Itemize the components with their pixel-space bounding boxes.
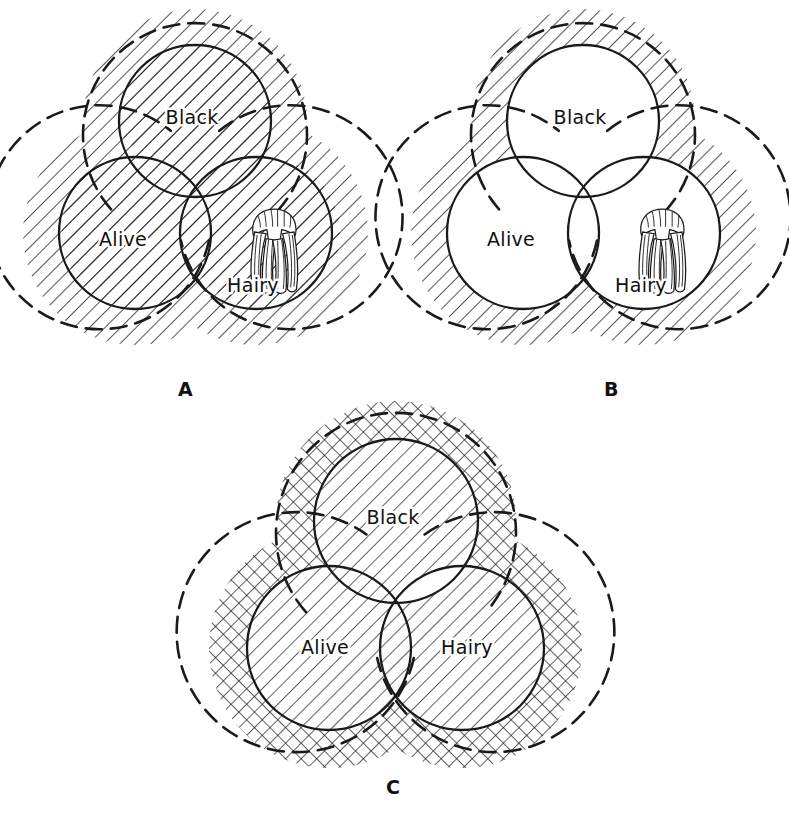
set-label-black-c: Black xyxy=(367,506,420,528)
venn-svg-c: Black Black Alive Alive Hairy Hairy xyxy=(200,408,590,778)
circles-hatch-fill-c xyxy=(160,368,630,815)
set-label-alive-b: Alive xyxy=(487,228,535,250)
venn-panel-c: Black Black Alive Alive Hairy Hairy xyxy=(200,408,590,778)
venn-panel-b: Black Black Alive Alive Hairy Hairy xyxy=(405,18,765,378)
set-label-alive-a: Alive xyxy=(99,228,147,250)
set-label-hairy-a: Hairy xyxy=(227,274,279,296)
venn-svg-b: Black Black Alive Alive Hairy Hairy xyxy=(405,18,765,378)
figure-canvas: Black Black Alive Alive Hairy Hairy A xyxy=(0,0,789,815)
universe-hatch-fill-b xyxy=(365,0,789,418)
set-label-hairy-b: Hairy xyxy=(615,274,667,296)
panel-caption-c: C xyxy=(386,776,400,798)
set-label-black-b: Black xyxy=(554,106,607,128)
venn-svg-a: Black Black Alive Alive Hairy Hairy xyxy=(25,18,385,378)
venn-panel-a: Black Black Alive Alive Hairy Hairy xyxy=(25,18,385,378)
set-label-alive-c: Alive xyxy=(301,636,349,658)
set-label-hairy-c: Hairy xyxy=(441,636,493,658)
set-label-black-a: Black xyxy=(166,106,219,128)
